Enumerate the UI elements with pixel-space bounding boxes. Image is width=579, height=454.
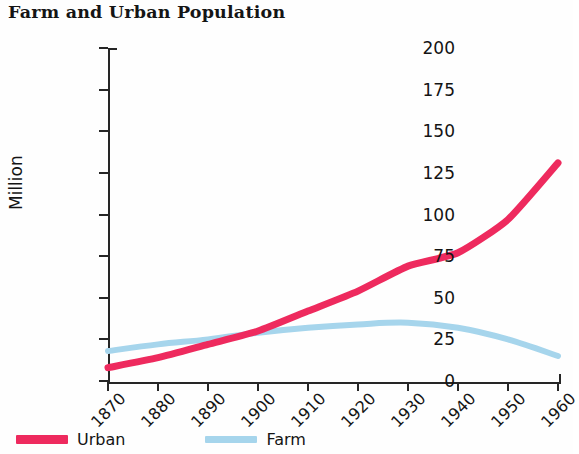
y-tick-label: 25: [433, 329, 455, 349]
legend-label-farm: Farm: [266, 430, 305, 449]
x-tick: [357, 382, 359, 391]
x-tick-label: 1930: [381, 389, 430, 438]
x-tick-label: 1920: [331, 389, 380, 438]
x-tick: [157, 382, 159, 391]
x-tick: [107, 382, 109, 391]
y-tick-label: 125: [423, 163, 455, 183]
x-tick-label: 1960: [531, 389, 579, 438]
series-plot: [108, 48, 560, 383]
legend-entry-urban[interactable]: Urban: [16, 430, 125, 449]
x-tick-label: 1940: [431, 389, 480, 438]
y-tick-label: 0: [444, 371, 455, 391]
x-tick: [507, 382, 509, 391]
x-tick: [207, 382, 209, 391]
x-tick-label: 1950: [481, 389, 530, 438]
plot-area: [108, 48, 560, 383]
y-tick: [99, 255, 108, 257]
legend-swatch-farm: [205, 436, 257, 443]
y-tick: [99, 89, 108, 91]
y-tick: [99, 297, 108, 299]
chart-legend: UrbanFarm: [16, 430, 306, 449]
y-tick-label: 175: [423, 80, 455, 100]
x-tick: [457, 382, 459, 391]
y-tick-label: 50: [433, 288, 455, 308]
legend-swatch-urban: [16, 435, 68, 444]
y-tick: [99, 172, 108, 174]
page-title: Farm and Urban Population: [8, 2, 285, 22]
y-tick: [99, 47, 108, 49]
y-tick-label: 75: [433, 246, 455, 266]
x-tick: [557, 382, 559, 391]
x-tick: [407, 382, 409, 391]
x-tick: [307, 382, 309, 391]
y-tick-label: 100: [423, 205, 455, 225]
y-tick: [99, 214, 108, 216]
y-axis-title: Million: [6, 155, 26, 210]
x-tick: [257, 382, 259, 391]
y-tick-label: 150: [423, 121, 455, 141]
y-tick: [99, 130, 108, 132]
legend-label-urban: Urban: [77, 430, 125, 449]
legend-entry-farm[interactable]: Farm: [205, 430, 305, 449]
y-tick: [99, 338, 108, 340]
y-tick-label: 200: [423, 38, 455, 58]
